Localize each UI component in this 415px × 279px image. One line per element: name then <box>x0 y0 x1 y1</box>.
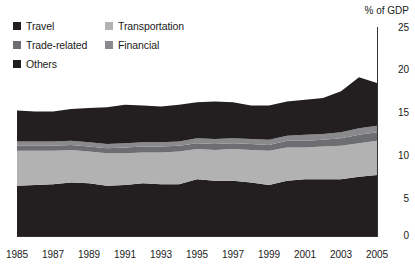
legend-label-financial: Financial <box>118 40 159 51</box>
x-tick-1993: 1993 <box>143 249 179 260</box>
y-tick-15: 15 <box>398 107 409 118</box>
legend-row: Others <box>13 59 243 78</box>
legend-item-trade-related: Trade-related <box>13 40 105 51</box>
x-tick-2005: 2005 <box>359 249 395 260</box>
y-tick-0: 0 <box>403 230 409 241</box>
legend-swatch-transportation <box>105 22 113 30</box>
legend-item-financial: Financial <box>105 40 159 51</box>
legend-row: Travel Transportation <box>13 21 243 40</box>
legend-label-others: Others <box>26 59 57 70</box>
legend-swatch-trade-related <box>13 41 21 49</box>
stacked-area-chart: Travel Transportation Trade-related Fina… <box>0 0 415 279</box>
legend-item-travel: Travel <box>13 21 105 32</box>
legend-label-trade-related: Trade-related <box>26 40 87 51</box>
legend-row: Trade-related Financial <box>13 40 243 59</box>
x-tick-1997: 1997 <box>215 249 251 260</box>
x-tick-2001: 2001 <box>287 249 323 260</box>
legend-label-transportation: Transportation <box>118 21 184 32</box>
y-tick-10: 10 <box>398 150 409 161</box>
x-tick-1989: 1989 <box>71 249 107 260</box>
x-tick-2003: 2003 <box>323 249 359 260</box>
x-tick-1999: 1999 <box>251 249 287 260</box>
area-series-others <box>17 77 377 144</box>
y-tick-5: 5 <box>403 193 409 204</box>
legend-item-transportation: Transportation <box>105 21 184 32</box>
chart-legend: Travel Transportation Trade-related Fina… <box>13 21 243 78</box>
area-series-travel <box>17 175 377 236</box>
x-tick-1985: 1985 <box>0 249 35 260</box>
legend-label-travel: Travel <box>26 21 54 32</box>
legend-swatch-others <box>13 60 21 68</box>
y-axis-title: % of GDP <box>365 5 409 16</box>
y-tick-20: 20 <box>398 64 409 75</box>
x-tick-1991: 1991 <box>107 249 143 260</box>
x-tick-1987: 1987 <box>35 249 71 260</box>
y-tick-25: 25 <box>398 22 409 33</box>
legend-swatch-travel <box>13 22 21 30</box>
legend-swatch-financial <box>105 41 113 49</box>
legend-item-others: Others <box>13 59 105 70</box>
x-tick-1995: 1995 <box>179 249 215 260</box>
